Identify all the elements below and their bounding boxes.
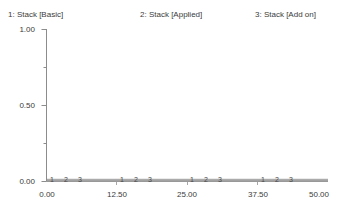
- series-marker-3: 3: [289, 176, 293, 183]
- x-axis-tick-label-1: 12.50: [97, 190, 137, 199]
- x-axis-tick-label-3: 37.50: [238, 190, 278, 199]
- series-marker-2: 2: [134, 176, 138, 183]
- x-axis-tick-label-2: 25.00: [167, 190, 207, 199]
- series-marker-2: 2: [64, 176, 68, 183]
- series-marker-3: 3: [218, 176, 222, 183]
- x-axis-tick-label-0: 0.00: [27, 190, 67, 199]
- y-axis-tick-label-mid: 0.50: [5, 101, 35, 110]
- series-marker-1: 1: [120, 176, 124, 183]
- x-axis-tick-label-4: 50.00: [299, 190, 339, 199]
- series-marker-1: 1: [190, 176, 194, 183]
- y-axis-tick-label-top: 1.00: [5, 25, 35, 34]
- y-axis-tick-label-bottom: 0.00: [5, 177, 35, 186]
- series-marker-2: 2: [275, 176, 279, 183]
- series-marker-3: 3: [78, 176, 82, 183]
- series-marker-1: 1: [50, 176, 54, 183]
- stock-time-series-chart: 1: Stack [Basic] 2: Stack [Applied] 3: S…: [0, 0, 339, 211]
- series-marker-1: 1: [261, 176, 265, 183]
- series-marker-2: 2: [204, 176, 208, 183]
- series-marker-3: 3: [148, 176, 152, 183]
